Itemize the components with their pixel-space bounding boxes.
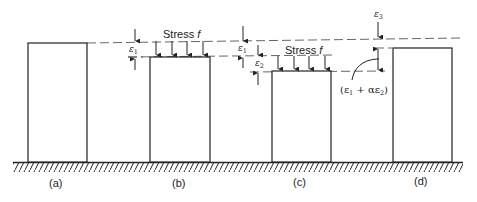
- block-c: [272, 71, 331, 162]
- recovery-annotation: (ε1 + αε2): [340, 84, 388, 97]
- caption-b: (b): [172, 177, 185, 189]
- stress-arrows-c: [278, 56, 325, 69]
- eps2-label-c: ε2: [255, 58, 264, 70]
- eps1-label-c: ε1: [238, 43, 247, 55]
- stress-arrows-b: [156, 41, 203, 55]
- caption-a: (a): [49, 177, 62, 189]
- block-b: [150, 57, 210, 162]
- ground: [13, 163, 463, 173]
- caption-d: (d): [414, 175, 427, 187]
- eps3-label-d: ε3: [374, 9, 383, 21]
- eps1-label-b: ε1: [129, 44, 138, 56]
- stress-label-b: Stress f: [163, 28, 201, 40]
- creep-diagram: Stress f ε1 Stress f ε1 ε2 ε3 (ε1 + αε2)…: [0, 0, 477, 202]
- block-a: [28, 43, 87, 162]
- block-d: [393, 48, 452, 162]
- dim-recovery-d: [352, 49, 378, 80]
- caption-c: (c): [293, 176, 306, 188]
- stress-label-c: Stress f: [285, 44, 323, 56]
